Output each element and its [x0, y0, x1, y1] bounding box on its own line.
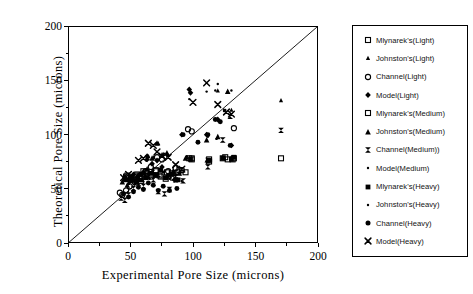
y-tick-label-200: 200 [30, 20, 62, 32]
x-minor-tick [286, 243, 287, 246]
data-point [220, 156, 225, 161]
y-tick-label-50: 50 [30, 183, 62, 195]
data-point [158, 168, 163, 173]
data-point [170, 172, 175, 177]
legend-label: Channel(Light) [376, 72, 427, 81]
legend-label: Model(Light) [376, 91, 419, 100]
legend-item-8[interactable]: Mlynarek's(Heavy) [353, 177, 467, 195]
y-tick-label-0: 0 [30, 237, 62, 249]
legend-label: Johnston's(Medium) [376, 127, 445, 136]
data-point [181, 132, 186, 137]
legend-label: Model(Heavy) [376, 237, 424, 246]
filled-diamond-icon [360, 88, 376, 102]
open-square-icon [360, 106, 376, 120]
x-tick-label-150: 150 [247, 250, 264, 262]
dot-icon [360, 161, 376, 175]
data-point [229, 108, 233, 112]
filled-square-icon [360, 180, 376, 194]
data-point [156, 188, 161, 193]
data-point [190, 99, 196, 105]
data-point [148, 178, 150, 180]
x-tick-mark [130, 243, 131, 247]
x-tick-label-50: 50 [125, 250, 137, 262]
legend-item-4[interactable]: Mlynarek's(Medium) [353, 104, 467, 122]
y-minor-tick [66, 107, 69, 108]
data-point [158, 175, 160, 177]
x-tick-label-0: 0 [65, 250, 71, 262]
data-point [173, 162, 179, 168]
legend-label: Mlynarek's(Medium) [376, 109, 445, 118]
y-tick-label-100: 100 [30, 129, 62, 141]
data-point [162, 191, 168, 196]
filled-triangle-icon [360, 125, 376, 139]
data-point [163, 175, 168, 180]
data-point [163, 170, 165, 172]
y-minor-tick [66, 53, 69, 54]
filled-circle-icon [360, 216, 376, 230]
chart-legend: Mlynarek's(Light)Johnston's(Light)Channe… [352, 25, 468, 257]
x-minor-tick [224, 243, 225, 246]
x-minor-tick [99, 243, 100, 246]
data-point [213, 117, 218, 122]
data-point [131, 189, 136, 194]
scatter-canvas [69, 27, 317, 242]
x-minor-tick [161, 243, 162, 246]
legend-item-9[interactable]: Johnston's(Heavy) [353, 196, 467, 214]
legend-item-7[interactable]: Model(Medium) [353, 159, 467, 177]
data-point [214, 89, 216, 91]
data-point [141, 187, 146, 192]
legend-label: Mlynarek's(Heavy) [376, 182, 439, 191]
data-point [167, 188, 172, 193]
chart-figure: Theoretical Pore Size (microns) 05010015… [0, 0, 473, 294]
data-point [215, 138, 217, 140]
data-point [205, 164, 211, 169]
series-10 [121, 117, 233, 199]
legend-label: Channel(Heavy) [376, 219, 432, 228]
data-point [153, 172, 155, 174]
data-point [204, 80, 210, 86]
data-point [205, 90, 207, 92]
x-tick-mark [255, 243, 256, 247]
y-tick-label-150: 150 [30, 74, 62, 86]
data-point [146, 181, 151, 186]
plot-area [68, 26, 318, 243]
parity-reference-line [69, 27, 317, 242]
data-point [279, 98, 283, 102]
legend-item-2[interactable]: Channel(Light) [353, 68, 467, 86]
bowtie-icon [360, 143, 376, 157]
data-point [143, 175, 148, 180]
data-point [204, 137, 210, 142]
data-point [205, 132, 210, 137]
legend-item-10[interactable]: Channel(Heavy) [353, 214, 467, 232]
data-point [151, 183, 156, 188]
legend-label: Mlynarek's(Light) [376, 36, 434, 45]
x-tick-label-200: 200 [309, 250, 326, 262]
data-point [161, 184, 166, 189]
y-tick-mark [64, 26, 68, 27]
legend-item-3[interactable]: Model(Light) [353, 86, 467, 104]
legend-item-5[interactable]: Johnston's(Medium) [353, 122, 467, 140]
data-point [134, 183, 136, 185]
dot-icon [360, 198, 376, 212]
data-point [181, 180, 183, 182]
legend-label: Model(Medium) [376, 164, 429, 173]
data-point [225, 89, 231, 94]
data-point [126, 195, 131, 200]
data-point [188, 157, 193, 162]
x-tick-mark [193, 243, 194, 247]
data-point [195, 140, 200, 145]
y-tick-mark [64, 134, 68, 135]
data-point [121, 191, 126, 196]
data-point [215, 102, 221, 108]
y-tick-mark [64, 188, 68, 189]
legend-item-1[interactable]: Johnston's(Light) [353, 49, 467, 67]
legend-item-6[interactable]: Channel(Medium)) [353, 141, 467, 159]
legend-item-11[interactable]: Model(Heavy) [353, 232, 467, 250]
data-point [232, 155, 237, 160]
legend-item-0[interactable]: Mlynarek's(Light) [353, 31, 467, 49]
data-point [136, 185, 141, 190]
data-point [230, 89, 232, 91]
data-point [148, 171, 153, 176]
y-tick-mark [64, 80, 68, 81]
small-triangle-icon [360, 51, 376, 65]
